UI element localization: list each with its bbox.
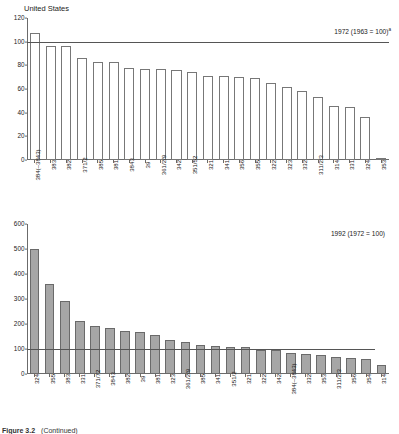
figure-caption: Figure 3.2(Continued) <box>2 427 78 434</box>
bar-332 <box>298 224 313 374</box>
bar-rect <box>250 78 260 160</box>
bar-355 <box>42 224 57 374</box>
x-label-cell: 381 <box>148 379 163 385</box>
x-axis-label: 314 <box>334 160 340 170</box>
bar-341 <box>208 224 223 374</box>
bar-rect <box>377 365 387 375</box>
x-label-cell: 324 <box>357 165 373 171</box>
bar-rect <box>45 284 55 375</box>
bar-rect <box>187 72 197 160</box>
bar-353 <box>373 18 389 160</box>
x-axis-label: 323 <box>170 374 176 384</box>
y-tick-mark-600 <box>25 224 27 225</box>
chart-top-plot-area: 020406080100120 <box>27 18 389 160</box>
bar-324 <box>357 18 373 160</box>
bar-rect <box>140 69 150 160</box>
bar-356 <box>344 224 359 374</box>
x-label-cell: 314 <box>374 379 389 385</box>
bar-311/2/3 <box>310 18 326 160</box>
x-axis-label: 353 <box>381 160 387 170</box>
bar-rect <box>150 335 160 374</box>
bar-rect <box>271 350 281 374</box>
x-axis-label: 341 <box>215 374 221 384</box>
x-label-cell: 351/52 <box>184 165 200 171</box>
bar-351/2 <box>223 224 238 374</box>
bar-3843 <box>121 18 137 160</box>
bar-361/2/9 <box>178 224 193 374</box>
bar-rect <box>241 347 251 375</box>
bar-331 <box>342 18 358 160</box>
x-axis-label: 385 <box>98 160 104 170</box>
x-label-cell: 322 <box>253 379 268 385</box>
x-label-cell: 356 <box>232 165 248 171</box>
x-axis-label: 322 <box>271 160 277 170</box>
x-axis-label: 3843 <box>110 372 116 386</box>
bar-321 <box>238 224 253 374</box>
x-axis-label: 332 <box>306 374 312 384</box>
y-tick-mark-500 <box>25 249 27 250</box>
bar-rect <box>60 301 70 374</box>
bar-314 <box>326 18 342 160</box>
x-axis-label: 331 <box>80 374 86 384</box>
x-label-cell: 3843 <box>102 379 117 385</box>
x-axis-label: 384(–3843) <box>35 149 41 180</box>
x-label-cell: 382 <box>117 379 132 385</box>
chart-top-1972: United States 1972 (1963 = 100)a 0204060… <box>0 0 399 208</box>
x-label-cell: 321 <box>200 165 216 171</box>
x-axis-label: 311/2/3 <box>318 155 324 175</box>
x-label-cell: 356 <box>344 379 359 385</box>
bar-356 <box>232 18 248 160</box>
y-tick-mark-200 <box>25 324 27 325</box>
bar-rect <box>234 77 244 160</box>
x-label-cell: 342 <box>268 379 283 385</box>
x-axis-label: 324 <box>365 160 371 170</box>
chart-top-reference-line <box>27 42 389 43</box>
bar-rect <box>329 106 339 160</box>
x-label-cell: 341 <box>216 165 232 171</box>
bar-341 <box>216 18 232 160</box>
bar-rect <box>156 69 166 160</box>
bar-385 <box>90 18 106 160</box>
bar-rect <box>282 87 292 160</box>
x-label-cell: 383 <box>43 165 59 171</box>
x-label-cell: 361/2/9 <box>178 379 193 385</box>
bar-rect <box>313 97 323 160</box>
x-label-cell: 383 <box>57 379 72 385</box>
y-tick-mark-400 <box>25 274 27 275</box>
x-label-cell: 371/72 <box>87 379 102 385</box>
x-label-cell: 385 <box>193 379 208 385</box>
bar-311/2/3 <box>329 224 344 374</box>
bar-385 <box>193 224 208 374</box>
bar-323 <box>163 224 178 374</box>
bar-382 <box>117 224 132 374</box>
x-axis-label: 371/2 <box>82 157 88 172</box>
x-label-cell: 323 <box>163 379 178 385</box>
x-label-cell: 355 <box>247 165 263 171</box>
bar-rect <box>105 328 115 375</box>
bar-361/2/9 <box>153 18 169 160</box>
y-tick-mark-300 <box>25 299 27 300</box>
x-axis-label: 384(–3843) <box>291 363 297 394</box>
figure-caption-text: (Continued) <box>41 427 78 434</box>
x-axis-label: 371/72 <box>95 370 101 389</box>
bar-rect <box>345 107 355 160</box>
bar-rect <box>171 70 181 160</box>
bar-354 <box>359 224 374 374</box>
bar-342 <box>169 18 185 160</box>
x-label-cell: 331 <box>72 379 87 385</box>
bar-322 <box>263 18 279 160</box>
x-label-cell: 385 <box>90 165 106 171</box>
x-label-cell: 311/2/3 <box>310 165 326 171</box>
x-label-cell: 355 <box>42 379 57 385</box>
bar-rect <box>316 355 326 375</box>
chart-top-bars <box>27 18 389 160</box>
bar-371/72 <box>87 224 102 374</box>
bar-381 <box>106 18 122 160</box>
x-label-cell: 314 <box>326 165 342 171</box>
bar-rect <box>346 358 356 375</box>
x-label-cell: 39 <box>137 165 153 171</box>
x-label-cell: 351/2 <box>223 379 238 385</box>
bar-rect <box>297 91 307 160</box>
bar-332 <box>294 18 310 160</box>
